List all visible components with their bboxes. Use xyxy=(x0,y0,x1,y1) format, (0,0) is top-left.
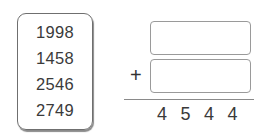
plus-sign: + xyxy=(130,65,142,85)
sum-digit: 4 xyxy=(204,104,228,124)
sum-divider-line xyxy=(124,99,254,100)
sum-result: 4 5 4 4 xyxy=(157,104,251,124)
number-choice[interactable]: 2749 xyxy=(36,101,74,119)
number-choices-box: 1998 1458 2546 2749 xyxy=(17,13,93,130)
sum-digit: 4 xyxy=(228,104,252,124)
addend-input-2[interactable] xyxy=(150,59,251,93)
sum-digit: 5 xyxy=(181,104,205,124)
sum-digit: 4 xyxy=(157,104,181,124)
addend-input-1[interactable] xyxy=(150,21,251,55)
number-choice[interactable]: 1998 xyxy=(36,23,74,41)
number-choice[interactable]: 1458 xyxy=(36,49,74,67)
number-choice[interactable]: 2546 xyxy=(36,75,74,93)
